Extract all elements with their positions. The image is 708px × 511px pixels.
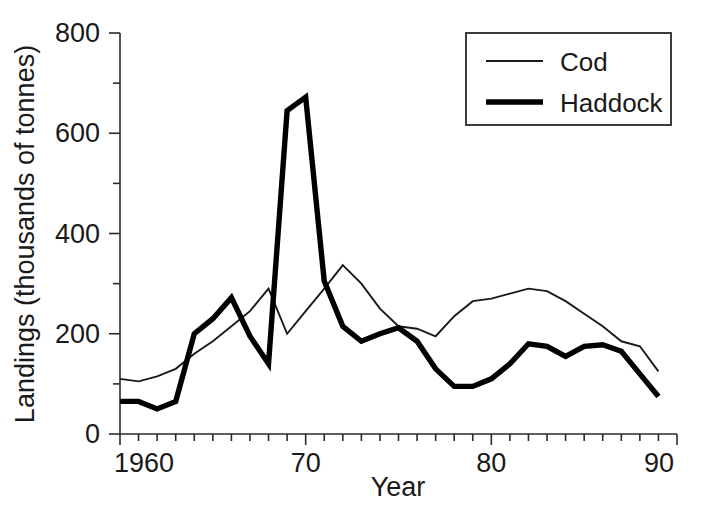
fisheries-landings-chart: Landings (thousands of tonnes) Year 0200… [0,0,708,511]
y-axis-title: Landings (thousands of tonnes) [10,45,40,423]
y-tick-label: 400 [55,219,100,249]
series-line-haddock [120,97,658,409]
y-tick-label: 800 [55,18,100,48]
y-tick-label: 600 [55,118,100,148]
series-layer [120,97,658,409]
x-tick-label: 90 [644,448,674,478]
y-axis-major-ticks [109,33,120,434]
chart-canvas: Landings (thousands of tonnes) Year 0200… [0,0,708,511]
x-tick-label: 1960 [114,448,174,478]
y-tick-label: 200 [55,319,100,349]
x-axis-title: Year [371,472,426,502]
x-tick-label: 70 [291,448,321,478]
x-axis-ticks [120,434,677,445]
x-tick-label: 80 [476,448,506,478]
legend-label-cod: Cod [560,47,608,77]
series-line-cod [120,265,658,381]
y-tick-label: 0 [85,419,100,449]
y-axis-tick-labels: 0200400600800 [55,18,100,449]
legend: Cod Haddock [466,33,671,125]
legend-label-haddock: Haddock [560,88,664,118]
